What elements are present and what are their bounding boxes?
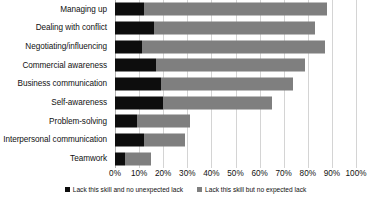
- x-tick-label: 20%: [155, 168, 171, 179]
- bar-row: Business communication: [0, 75, 371, 94]
- x-tick-label: 70%: [275, 168, 291, 179]
- x-tick-label: 90%: [324, 168, 340, 179]
- bar-segment-series-0: [115, 77, 161, 90]
- category-label: Managing up: [0, 5, 111, 14]
- legend-swatch-icon: [65, 187, 70, 192]
- legend-label: Lack this skill and no unexpected lack: [73, 186, 183, 193]
- bar-segment-series-1: [144, 3, 327, 16]
- chart-legend: Lack this skill and no unexpected lackLa…: [0, 186, 371, 197]
- category-label: Problem-solving: [0, 117, 111, 126]
- x-tick-label: 0%: [109, 168, 121, 179]
- bar-segment-series-0: [115, 3, 144, 16]
- category-label: Commercial awareness: [0, 61, 111, 70]
- bar-row: Interpersonal communication: [0, 131, 371, 150]
- bar-segment-series-0: [115, 21, 154, 34]
- x-tick-label: 40%: [203, 168, 219, 179]
- stacked-bar: [115, 40, 356, 53]
- stacked-bar-chart: Managing upDealing with conflictNegotiat…: [0, 0, 371, 197]
- stacked-bar: [115, 77, 356, 90]
- stacked-bar: [115, 152, 356, 165]
- category-label: Dealing with conflict: [0, 23, 111, 32]
- bar-row: Commercial awareness: [0, 56, 371, 75]
- legend-swatch-icon: [197, 187, 202, 192]
- stacked-bar: [115, 3, 356, 16]
- bar-row: Teamwork: [0, 149, 371, 168]
- bar-row: Managing up: [0, 0, 371, 19]
- bar-segment-series-0: [115, 40, 142, 53]
- bar-segment-series-1: [137, 115, 190, 128]
- bar-row: Problem-solving: [0, 112, 371, 131]
- legend-item[interactable]: Lack this skill but no expected lack: [197, 186, 306, 193]
- bar-rows: Managing upDealing with conflictNegotiat…: [0, 0, 371, 168]
- bar-segment-series-1: [163, 96, 271, 109]
- category-label: Business communication: [0, 79, 111, 88]
- bar-row: Dealing with conflict: [0, 19, 371, 38]
- bar-segment-series-1: [154, 21, 315, 34]
- x-tick-label: 100%: [346, 168, 367, 179]
- bar-segment-series-1: [125, 152, 152, 165]
- bar-segment-series-0: [115, 133, 144, 146]
- x-tick-label: 50%: [227, 168, 243, 179]
- x-tick-label: 30%: [179, 168, 195, 179]
- stacked-bar: [115, 96, 356, 109]
- x-tick-label: 10%: [131, 168, 147, 179]
- x-tick-label: 60%: [251, 168, 267, 179]
- category-label: Teamwork: [0, 154, 111, 163]
- legend-label: Lack this skill but no expected lack: [205, 186, 306, 193]
- bar-row: Self-awareness: [0, 93, 371, 112]
- bar-segment-series-0: [115, 152, 125, 165]
- bar-segment-series-0: [115, 59, 156, 72]
- category-label: Interpersonal communication: [0, 135, 111, 144]
- category-label: Negotiating/influencing: [0, 42, 111, 51]
- stacked-bar: [115, 21, 356, 34]
- category-label: Self-awareness: [0, 98, 111, 107]
- bar-row: Negotiating/influencing: [0, 37, 371, 56]
- bar-segment-series-0: [115, 115, 137, 128]
- bar-segment-series-1: [142, 40, 325, 53]
- stacked-bar: [115, 59, 356, 72]
- bar-segment-series-1: [144, 133, 185, 146]
- bar-segment-series-0: [115, 96, 163, 109]
- x-tick-label: 80%: [300, 168, 316, 179]
- x-axis: 0%10%20%30%40%50%60%70%80%90%100%: [115, 168, 356, 180]
- bar-segment-series-1: [156, 59, 305, 72]
- legend-item[interactable]: Lack this skill and no unexpected lack: [65, 186, 183, 193]
- bar-segment-series-1: [161, 77, 294, 90]
- plot-area: Managing upDealing with conflictNegotiat…: [0, 0, 371, 168]
- stacked-bar: [115, 115, 356, 128]
- stacked-bar: [115, 133, 356, 146]
